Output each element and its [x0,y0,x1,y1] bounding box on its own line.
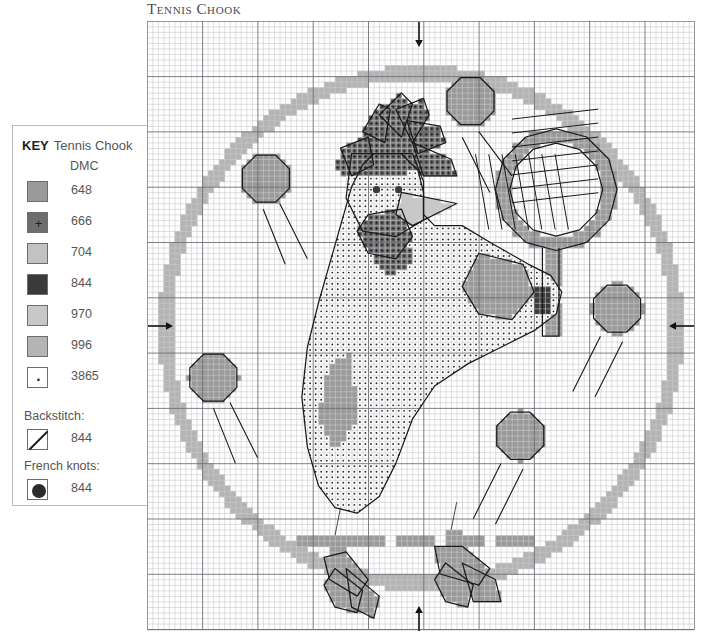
key-row-996: 996 [27,336,153,358]
color-swatch-666: + [27,212,48,233]
key-row-704: 704 [27,243,153,265]
color-swatch-648 [27,181,48,202]
color-swatch-3865: · [27,367,48,388]
chart-canvas [147,21,695,632]
key-header: KEYTennis Chook [22,136,133,154]
thread-code-844: 844 [71,276,92,290]
thread-code-648: 648 [71,183,92,197]
thread-code-970: 970 [71,307,92,321]
page-title: Tennis Chook [147,1,241,18]
backstitch-swatch [27,429,48,450]
key-heading-name: Tennis Chook [54,138,133,153]
key-row-666: +666 [27,212,153,234]
key-heading-word: KEY [22,138,49,153]
backstitch-label: Backstitch: [24,409,84,423]
key-row-3865: ·3865 [27,367,153,389]
french-knots-code: 844 [71,481,92,495]
thread-code-996: 996 [71,338,92,352]
french-knot-swatch [27,479,48,500]
cross-stitch-chart [147,21,695,632]
symbol-dot-icon: · [28,368,49,389]
diagonal-slash-icon [28,430,49,451]
color-swatch-844 [27,274,48,295]
backstitch-row: 844 [27,429,153,451]
key-row-648: 648 [27,181,153,203]
key-column-header: DMC [70,159,98,173]
thread-code-666: 666 [71,214,92,228]
filled-circle-icon [32,484,46,498]
key-row-844: 844 [27,274,153,296]
key-row-970: 970 [27,305,153,327]
thread-code-3865: 3865 [71,369,99,383]
backstitch-code: 844 [71,431,92,445]
french-knots-row: 844 [27,479,153,501]
thread-code-704: 704 [71,245,92,259]
top-center-arrow [412,22,426,50]
right-center-arrow [666,319,694,333]
color-swatch-970 [27,305,48,326]
symbol-plus-icon: + [28,213,49,234]
key-legend-box: KEYTennis Chook DMC 648+666704844970996·… [12,125,160,506]
bottom-center-arrow [412,603,426,631]
color-swatch-704 [27,243,48,264]
french-knots-label: French knots: [24,459,100,473]
color-swatch-996 [27,336,48,357]
left-center-arrow [148,319,176,333]
